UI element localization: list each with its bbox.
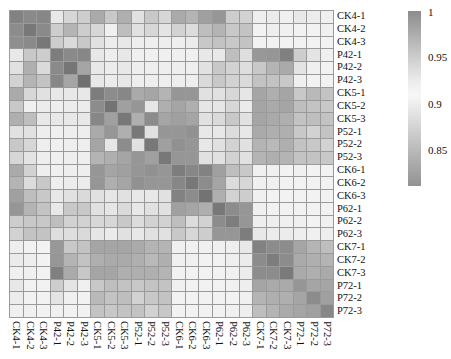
heatmap-cell (307, 177, 320, 189)
heatmap-cell (78, 216, 91, 228)
heatmap-cell (145, 280, 158, 292)
heatmap-cell (51, 62, 64, 74)
heatmap-cell (253, 305, 266, 317)
heatmap-cell (253, 216, 266, 228)
heatmap-cell (24, 241, 37, 253)
row-label: CK6-1 (337, 164, 397, 177)
heatmap-cell (64, 267, 77, 279)
heatmap-cell (24, 113, 37, 125)
row-label: CK7-1 (337, 241, 397, 254)
heatmap-cell (267, 280, 280, 292)
heatmap-cell (10, 305, 23, 317)
heatmap-cell (24, 88, 37, 100)
heatmap-cell (280, 216, 293, 228)
heatmap-cell (321, 165, 334, 177)
heatmap-cell (172, 254, 185, 266)
heatmap-cell (199, 49, 212, 61)
column-label: CK5-2 (104, 321, 118, 357)
heatmap-cell (91, 62, 104, 74)
heatmap-cell (91, 292, 104, 304)
heatmap-cell (78, 254, 91, 266)
heatmap-cell (307, 88, 320, 100)
heatmap-cell (78, 113, 91, 125)
heatmap-cell (253, 126, 266, 138)
heatmap-cell (37, 280, 50, 292)
column-label: P42-2 (63, 321, 77, 357)
heatmap-cell (240, 305, 253, 317)
heatmap-cell (307, 37, 320, 49)
heatmap-cell (10, 216, 23, 228)
heatmap-cell (240, 280, 253, 292)
heatmap-cell (321, 280, 334, 292)
heatmap-cell (105, 216, 118, 228)
heatmap-cell (253, 11, 266, 23)
heatmap-cell (186, 190, 199, 202)
heatmap-cell (240, 241, 253, 253)
heatmap-cell (186, 177, 199, 189)
heatmap-cell (132, 165, 145, 177)
row-label: P72-1 (337, 279, 397, 292)
heatmap-cell (186, 37, 199, 49)
heatmap-cell (186, 88, 199, 100)
heatmap-cell (186, 152, 199, 164)
colorbar-tick-0-95: 0.95 (428, 51, 447, 63)
heatmap-cell (321, 62, 334, 74)
heatmap-cell (186, 280, 199, 292)
heatmap-cell (64, 177, 77, 189)
heatmap-cell (267, 228, 280, 240)
heatmap-cell (105, 177, 118, 189)
heatmap-cell (118, 203, 131, 215)
heatmap-cell (37, 113, 50, 125)
heatmap-cell (159, 88, 172, 100)
heatmap-cell (78, 241, 91, 253)
heatmap-cell (321, 37, 334, 49)
heatmap-cell (186, 228, 199, 240)
heatmap-cell (105, 228, 118, 240)
heatmap-cell (240, 49, 253, 61)
heatmap-cell (37, 37, 50, 49)
heatmap-cell (10, 139, 23, 151)
heatmap-cell (253, 292, 266, 304)
heatmap-cell (64, 228, 77, 240)
heatmap-cell (226, 126, 239, 138)
heatmap-cell (307, 280, 320, 292)
heatmap-cell (91, 88, 104, 100)
heatmap-cell (64, 62, 77, 74)
column-label: P62-3 (239, 321, 253, 357)
heatmap-cell (145, 228, 158, 240)
heatmap-cell (105, 62, 118, 74)
heatmap-cell (64, 216, 77, 228)
heatmap-cell (145, 101, 158, 113)
heatmap-cell (91, 177, 104, 189)
column-label: CK7-1 (253, 321, 267, 357)
heatmap-cell (145, 203, 158, 215)
heatmap-cell (307, 75, 320, 87)
heatmap-cell (186, 49, 199, 61)
heatmap-cell (159, 305, 172, 317)
heatmap-cell (226, 254, 239, 266)
heatmap-cell (307, 139, 320, 151)
heatmap-cell (78, 305, 91, 317)
heatmap-cell (132, 101, 145, 113)
heatmap-cell (199, 139, 212, 151)
heatmap-cell (91, 165, 104, 177)
heatmap-cell (118, 37, 131, 49)
heatmap-cell (132, 203, 145, 215)
heatmap-cell (307, 126, 320, 138)
heatmap-cell (226, 203, 239, 215)
heatmap-cell (159, 216, 172, 228)
heatmap-cell (307, 49, 320, 61)
heatmap-cell (37, 254, 50, 266)
column-label: CK7-2 (266, 321, 280, 357)
heatmap-cell (186, 292, 199, 304)
heatmap-cell (294, 228, 307, 240)
heatmap-cell (186, 267, 199, 279)
heatmap-cell (24, 165, 37, 177)
heatmap-cell (64, 292, 77, 304)
heatmap-cell (186, 241, 199, 253)
heatmap-cell (118, 292, 131, 304)
heatmap-cell (240, 228, 253, 240)
heatmap-cell (307, 11, 320, 23)
heatmap-cell (159, 75, 172, 87)
heatmap-cell (253, 203, 266, 215)
